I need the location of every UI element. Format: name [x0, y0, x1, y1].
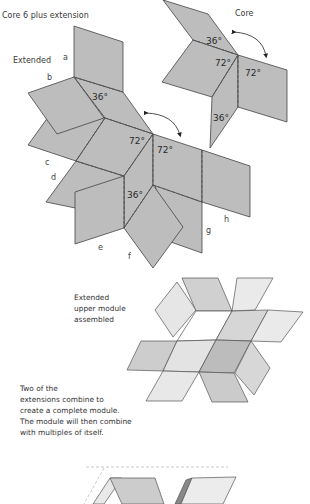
ext-angle-72-left: 72° [129, 136, 145, 146]
description-line: create a complete module. [20, 405, 132, 416]
ext-angle-36-top: 36° [92, 92, 108, 102]
core-angle-72-left: 72° [215, 58, 231, 68]
module-description: Two of the extensions combine to create … [20, 383, 132, 438]
assembled-caption-line: assembled [74, 314, 126, 325]
assembled-caption-line: Extended [74, 292, 126, 303]
core-diagram [162, 0, 287, 148]
description-line: with multiples of itself. [20, 427, 132, 438]
assembled-caption-line: upper module [74, 303, 126, 314]
bottom-module-preview [84, 467, 236, 504]
assembled-module [127, 278, 303, 402]
tile [110, 478, 164, 504]
assembled-caption: Extended upper module assembled [74, 292, 126, 325]
core-rotation-arrow-icon [234, 32, 266, 56]
tile [232, 278, 273, 311]
tile [146, 371, 199, 401]
ext-angle-72-right: 72° [157, 145, 173, 155]
core-panel-right [238, 55, 287, 122]
ext-panel-h [202, 150, 250, 217]
description-line: Two of the [20, 383, 132, 394]
ext-angle-36-bottom: 36° [127, 190, 143, 200]
core-angle-72-right: 72° [245, 68, 261, 78]
description-line: The module will then combine [20, 416, 132, 427]
core-angle-36-bottom: 36° [213, 113, 229, 123]
description-line: extensions combine to [20, 394, 132, 405]
core-angle-36-top: 36° [206, 36, 222, 46]
